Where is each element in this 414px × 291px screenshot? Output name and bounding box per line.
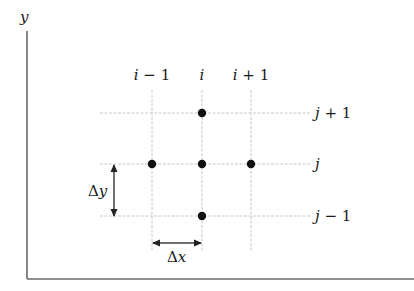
finite-difference-grid-diagram: y i − 1 i i + 1 j + 1 j j − 1 Δy Δx <box>0 0 414 291</box>
grid-point-i-j <box>198 160 206 168</box>
row-label-j-plus-1: j + 1 <box>312 104 351 122</box>
y-axis-label: y <box>19 8 29 26</box>
grid-point-i-j-plus-1 <box>198 109 206 117</box>
delta-y-label: Δy <box>88 182 108 200</box>
row-label-j-minus-1: j − 1 <box>312 207 351 225</box>
row-label-j: j <box>312 155 320 173</box>
column-label-i-plus-1: i + 1 <box>233 66 269 84</box>
grid-point-i-minus-1-j <box>148 160 156 168</box>
grid-point-i-plus-1-j <box>247 160 255 168</box>
delta-x-label: Δx <box>167 248 187 266</box>
column-label-i-minus-1: i − 1 <box>134 66 170 84</box>
column-label-i: i <box>200 66 205 84</box>
grid-point-i-j-minus-1 <box>198 212 206 220</box>
